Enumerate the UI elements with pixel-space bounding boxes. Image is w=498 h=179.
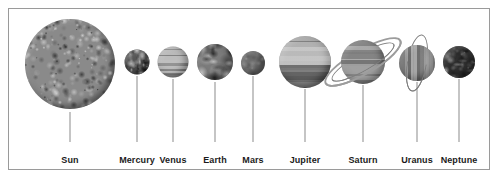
leader-line-sun bbox=[70, 112, 71, 142]
label-venus: Venus bbox=[159, 155, 186, 165]
planet-texture-neptune bbox=[443, 46, 475, 78]
planet-disc-saturn bbox=[341, 40, 385, 84]
planet-texture-venus bbox=[158, 47, 189, 78]
celestial-body-mars[interactable] bbox=[241, 51, 265, 75]
leader-line-saturn bbox=[363, 85, 364, 142]
planet-texture-earth bbox=[197, 44, 233, 80]
leader-line-uranus bbox=[417, 82, 418, 142]
planet-texture-mercury bbox=[125, 50, 150, 75]
planet-disc-earth bbox=[197, 44, 233, 80]
planet-texture-mars bbox=[241, 51, 265, 75]
label-saturn: Saturn bbox=[348, 155, 377, 165]
celestial-body-mercury[interactable] bbox=[125, 50, 150, 75]
leader-line-earth bbox=[215, 82, 216, 142]
celestial-body-venus[interactable] bbox=[158, 47, 189, 78]
planet-disc-sun bbox=[25, 19, 115, 109]
celestial-body-jupiter[interactable] bbox=[279, 36, 331, 88]
celestial-body-uranus[interactable] bbox=[399, 45, 435, 81]
leader-line-mercury bbox=[137, 76, 138, 142]
label-neptune: Neptune bbox=[441, 155, 478, 165]
label-jupiter: Jupiter bbox=[290, 155, 321, 165]
planet-disc-mercury bbox=[125, 50, 150, 75]
label-sun: Sun bbox=[61, 155, 78, 165]
celestial-body-sun[interactable] bbox=[25, 19, 115, 109]
label-uranus: Uranus bbox=[401, 155, 433, 165]
label-earth: Earth bbox=[203, 155, 227, 165]
planet-disc-neptune bbox=[443, 46, 475, 78]
leader-line-neptune bbox=[459, 79, 460, 142]
celestial-body-saturn[interactable] bbox=[341, 40, 385, 84]
celestial-body-earth[interactable] bbox=[197, 44, 233, 80]
planet-texture-sun bbox=[25, 19, 115, 109]
leader-line-jupiter bbox=[305, 89, 306, 142]
planet-texture-saturn bbox=[341, 40, 385, 84]
label-mercury: Mercury bbox=[119, 155, 155, 165]
planet-disc-mars bbox=[241, 51, 265, 75]
solar-system-diagram: SunMercuryVenusEarthMarsJupiterSaturnUra… bbox=[0, 0, 498, 179]
planet-disc-uranus bbox=[399, 45, 435, 81]
planet-texture-jupiter bbox=[279, 36, 331, 88]
celestial-body-neptune[interactable] bbox=[443, 46, 475, 78]
planet-disc-venus bbox=[158, 47, 189, 78]
label-mars: Mars bbox=[242, 155, 263, 165]
planet-disc-jupiter bbox=[279, 36, 331, 88]
planet-texture-uranus bbox=[399, 45, 435, 81]
leader-line-venus bbox=[173, 79, 174, 142]
leader-line-mars bbox=[253, 76, 254, 142]
